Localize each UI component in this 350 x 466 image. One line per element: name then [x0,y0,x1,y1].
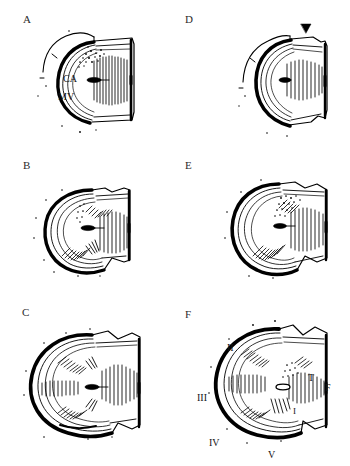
label-t: T [308,373,314,383]
valve-inner-top [293,45,322,47]
panel-letter-d: D [185,14,193,25]
panel-d: D [175,0,350,150]
stipple-cloud [274,195,301,217]
panel-letter-e: E [185,160,192,171]
adductor-scar-open [276,384,290,390]
panel-f-drawing [175,295,350,460]
hatching-ray-v [271,398,290,413]
hatching-band-lower-mid [86,240,99,254]
hatching-ray-iv [241,407,270,419]
panel-f: F [175,295,350,460]
adductor-scar [274,224,287,229]
panel-c: C [0,295,175,460]
hatching-band-lower-left [253,245,285,260]
adductor-scar [279,78,291,83]
hatching-field [287,60,322,100]
mantle-layer-3 [251,196,294,260]
label-f: F [325,383,331,393]
figure-plate: A [0,0,350,466]
mantle-layer-2 [266,48,293,117]
hatching-field-right [289,373,324,403]
valve-inner-bottom [110,419,136,423]
hatching-ray-ii [241,349,269,367]
valve-inner-bottom [94,115,130,117]
adductor-scar [87,77,101,82]
label-iii: III [197,393,207,403]
flap-tick [250,58,255,62]
adductor-scar [81,225,95,230]
panel-b: B [0,150,175,295]
panel-b-drawing [0,150,175,295]
valve-inner-top [283,337,324,339]
hatching-band-upper [279,200,299,213]
stipple-cloud [76,203,85,223]
panel-c-drawing [0,295,175,460]
label-ca: CA [63,74,77,84]
panel-e: E [175,150,350,295]
arrowhead-marker [301,24,311,33]
caption-cutoff-strip [0,457,350,466]
panel-letter-f: F [185,309,191,320]
label-i: I [293,407,296,416]
panel-d-drawing [175,0,350,150]
valve-inner-top [96,194,128,196]
panel-letter-c: C [22,307,29,318]
panel-letter-b: B [23,160,30,171]
valve-inner-top2 [97,198,128,200]
valve-inner-top2 [284,194,324,196]
shell-wall-thick [31,335,112,437]
hatching-field-right [291,208,323,251]
peripheral-dots [23,328,113,440]
valve-inner-top [283,190,324,192]
hatching-ray-iii [229,375,265,393]
valve-inner-top2 [293,49,322,52]
stipple-cloud [282,362,299,378]
valve-inner-top [96,44,130,46]
label-ii: II [227,343,234,353]
panel-e-drawing [175,150,350,295]
valve-inner-top [96,341,137,343]
flap-tick [52,54,57,58]
hatching-field-right [100,212,127,253]
hatching-ray-left [42,381,78,396]
valve-inner-bottom [102,256,126,258]
hatching-ray-t [295,357,312,368]
hatching-field-right [102,365,137,405]
valve-inner-top2 [284,342,324,344]
panel-letter-a: A [23,14,31,25]
hatching-ray-upper [58,357,86,374]
valve-inner-top2 [97,345,137,347]
mantle-layer-2 [244,192,295,265]
hatching-ray-central [86,357,97,411]
label-mv: MV [58,92,74,102]
valve-block-outline [279,325,327,433]
panel-a: A [0,0,175,150]
label-iv: IV [209,438,220,448]
adductor-scar [85,384,99,389]
peripheral-dots [238,95,287,137]
